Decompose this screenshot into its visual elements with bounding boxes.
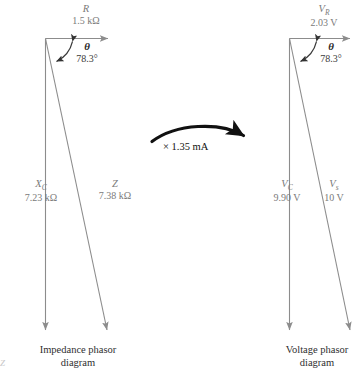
left-impedance-symbol: Z [80,178,150,190]
scale-arrow [152,126,244,141]
right-angle-value: 78.3° [302,53,355,65]
right-voltage-r-value: 2.03 V [295,17,353,28]
right-voltage-c-value: 9.90 V [254,192,320,203]
left-reactance-label: XC 7.23 kΩ [6,178,76,204]
right-voltage-s-value: 10 V [312,192,355,203]
left-resistance-symbol: R [55,3,117,15]
left-impedance-value: 7.38 kΩ [80,190,150,201]
left-resistance-value: 1.5 kΩ [55,15,117,26]
right-caption-line1: Voltage phasor [286,344,349,355]
scale-arrow-curve [152,126,244,141]
scale-arrow-label: × 1.35 mA [163,141,208,152]
right-angle-symbol: θ [302,40,355,53]
left-angle-label: θ 78.3° [58,40,116,65]
left-angle-symbol: θ [58,40,116,53]
right-voltage-c-symbol: VC [254,178,320,192]
left-caption-line1: Impedance phasor [40,344,117,355]
right-voltage-c-label: VC 9.90 V [254,178,320,204]
corner-mark: Z [0,358,5,368]
left-impedance-label: Z 7.38 kΩ [80,178,150,201]
right-voltage-s-symbol: Vs [312,178,355,192]
left-angle-value: 78.3° [58,53,116,65]
left-resistance-label: R 1.5 kΩ [55,3,117,26]
right-voltage-r-symbol: VR [295,3,353,17]
left-reactance-value: 7.23 kΩ [6,192,76,203]
right-caption-line2: diagram [300,357,334,368]
right-voltage-r-label: VR 2.03 V [295,3,353,29]
left-diagram-caption: Impedance phasor diagram [18,344,138,369]
right-diagram-caption: Voltage phasor diagram [262,344,355,369]
right-voltage-s-label: Vs 10 V [312,178,355,204]
left-caption-line2: diagram [61,357,95,368]
right-angle-label: θ 78.3° [302,40,355,65]
phasor-figure: R 1.5 kΩ θ 78.3° XC 7.23 kΩ Z 7.38 kΩ Im… [0,0,355,374]
left-reactance-symbol: XC [6,178,76,192]
